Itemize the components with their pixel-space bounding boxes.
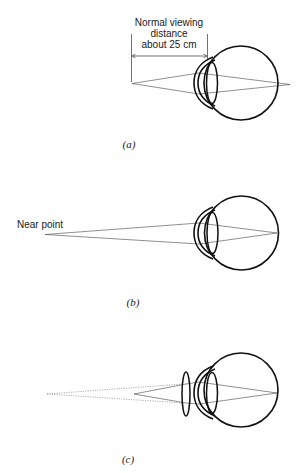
corrective-lens [182,372,190,416]
eye-icon [194,46,278,120]
eye-icon [194,196,279,270]
light-rays [45,223,277,244]
virtual-rays [47,384,183,403]
annotation-line-1: Normal viewing [135,17,203,28]
annotation-line-2: distance [150,28,188,39]
panel-label-c: (c) [122,453,135,466]
panel-c: (c) [47,353,278,466]
eye-lens [207,63,218,104]
annotation-line-3: about 25 cm [141,39,196,50]
eye-lens [207,213,218,254]
panel-b: Near point (b) [17,196,279,309]
panel-a: Normal viewing distance about 25 cm (a) [123,17,290,151]
panel-label-a: (a) [123,138,136,151]
light-rays [132,73,290,94]
near-point-label: Near point [17,219,63,230]
panel-label-b: (b) [127,296,140,309]
eye-optics-diagram: Normal viewing distance about 25 cm (a) … [0,0,304,473]
eye-icon [194,353,278,427]
eye-lens [207,373,218,414]
